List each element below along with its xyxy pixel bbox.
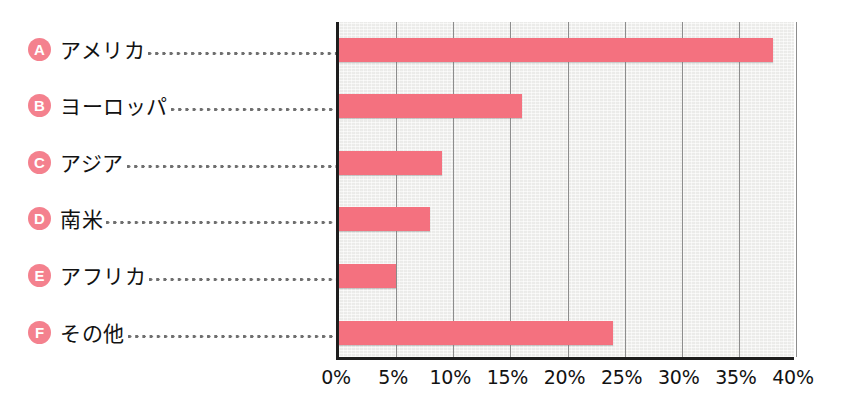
x-axis-tick-labels: 0%5%10%15%20%25%30%35%40% [336, 366, 794, 400]
gridline-25 [625, 22, 626, 357]
legend-marker-c-icon: C [28, 151, 51, 174]
legend-row-b: B ヨーロッパ [28, 88, 336, 122]
legend-marker-d-icon: D [28, 207, 51, 230]
bar-a [339, 38, 773, 62]
x-tick-label-15: 15% [487, 366, 528, 388]
legend-label-f: その他 [60, 317, 125, 347]
gridline-20 [568, 22, 569, 357]
x-tick-label-30: 30% [658, 366, 699, 388]
legend-row-f: F その他 [28, 315, 336, 349]
legend-label-e: アフリカ [60, 260, 146, 290]
bar-f [339, 321, 613, 345]
gridline-5 [396, 22, 397, 357]
plot-paper-texture [339, 22, 794, 357]
bar-c [339, 151, 442, 175]
legend-marker-b-icon: B [28, 94, 51, 117]
legend-marker-a-icon: A [28, 38, 51, 61]
legend-marker-f-icon: F [28, 321, 51, 344]
gridline-15 [510, 22, 511, 357]
x-tick-label-10: 10% [430, 366, 471, 388]
legend-row-e: E アフリカ [28, 258, 336, 292]
legend-row-a: A アメリカ [28, 32, 336, 66]
leader-dots-b [171, 99, 337, 120]
bar-b [339, 94, 522, 118]
x-tick-label-20: 20% [544, 366, 585, 388]
horizontal-bar-chart: A アメリカ B ヨーロッパ C アジア D 南米 E アフリカ F その他 [0, 0, 846, 416]
category-label-column: A アメリカ B ヨーロッパ C アジア D 南米 E アフリカ F その他 [0, 0, 336, 416]
leader-dots-a [148, 43, 336, 64]
bar-e [339, 264, 396, 288]
plot-area [336, 22, 794, 360]
gridline-30 [682, 22, 683, 357]
x-tick-label-5: 5% [378, 366, 408, 388]
x-tick-label-35: 35% [715, 366, 756, 388]
legend-label-a: アメリカ [60, 34, 145, 64]
x-tick-label-0: 0% [321, 366, 351, 388]
legend-row-d: D 南米 [28, 201, 336, 235]
x-tick-label-25: 25% [601, 366, 642, 388]
x-tick-label-40: 40% [772, 366, 813, 388]
bar-d [339, 207, 430, 231]
gridline-35 [739, 22, 740, 357]
legend-label-d: 南米 [60, 203, 103, 233]
legend-row-c: C アジア [28, 145, 336, 179]
legend-label-b: ヨーロッパ [60, 90, 168, 120]
leader-dots-f [128, 326, 337, 347]
leader-dots-c [127, 156, 337, 177]
legend-label-c: アジア [60, 147, 124, 177]
leader-dots-e [149, 269, 336, 290]
leader-dots-d [106, 212, 336, 233]
legend-marker-e-icon: E [28, 264, 51, 287]
gridline-10 [453, 22, 454, 357]
gridline-40 [796, 22, 797, 357]
